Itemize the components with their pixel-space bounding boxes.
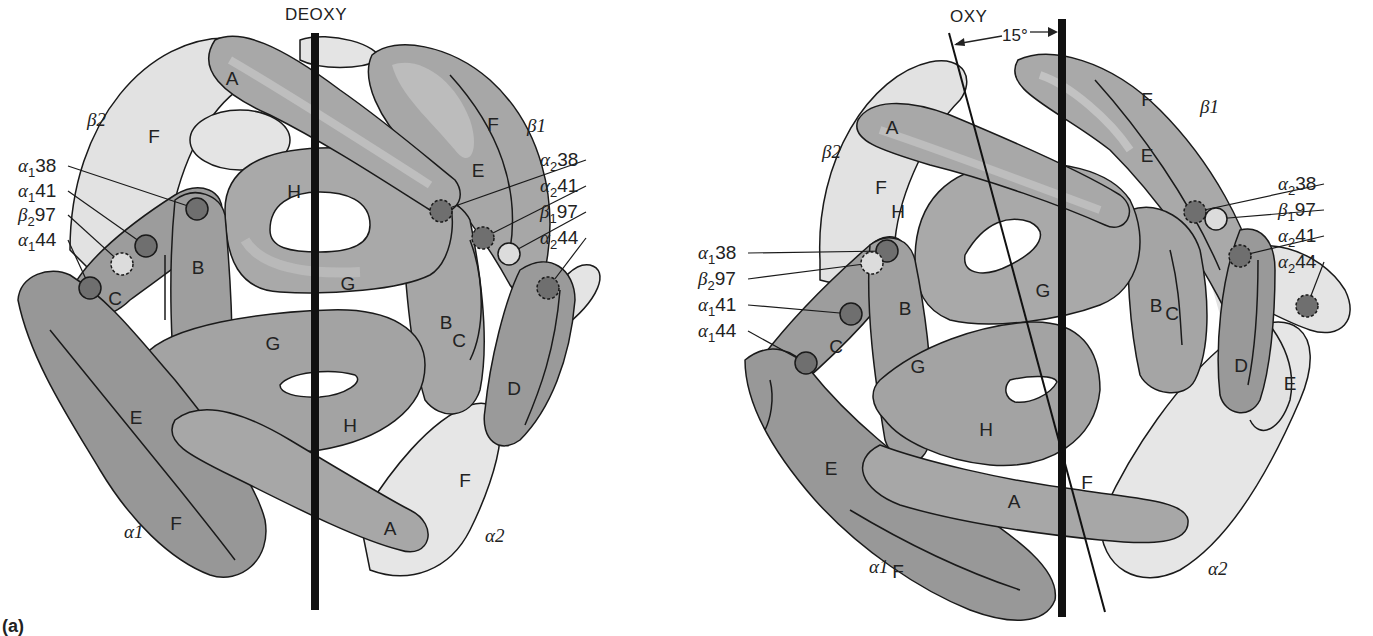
deoxy-chain-beta2-label: β2 <box>86 109 106 130</box>
helix-label-e-beta1: E <box>472 160 485 181</box>
residue-dot-icon <box>1296 295 1318 317</box>
oxy-chain-alpha2-label: α2 <box>1208 558 1228 579</box>
helix-label-h-bottom: H <box>979 419 993 440</box>
residue-dot-icon <box>861 252 883 274</box>
helix-label-e-alpha1: E <box>130 407 143 428</box>
helix-label-c-right: C <box>452 330 466 351</box>
helix-label-f-alpha1: F <box>892 561 904 582</box>
deoxy-helix-d-right <box>484 262 575 446</box>
helix-label-b-left: B <box>192 257 205 278</box>
residue-dot-icon <box>186 198 208 220</box>
residue-dot-icon <box>1205 208 1227 230</box>
oxy-chain-alpha1-label: α1 <box>869 556 888 577</box>
helix-label-e-alpha2: E <box>1284 373 1297 394</box>
helix-label-h-top: H <box>891 201 905 222</box>
helix-label-c-right: C <box>1165 303 1179 324</box>
residue-dot-icon <box>840 303 862 325</box>
deoxy-chain-alpha2-label: α2 <box>485 525 505 546</box>
helix-label-a-top: A <box>226 68 239 89</box>
residue-label: α241 <box>1278 225 1316 250</box>
oxy-reference-axis <box>1058 19 1066 617</box>
helix-label-h-bottom: H <box>343 415 357 436</box>
oxy-chain-beta1-label: β1 <box>1199 96 1219 117</box>
oxy-chain-beta2-label: β2 <box>821 141 841 162</box>
panel-label: (a) <box>2 616 24 636</box>
residue-label: α144 <box>18 229 57 254</box>
residue-label: α141 <box>18 180 56 205</box>
helix-label-d-right: D <box>507 378 521 399</box>
helix-label-g-top: G <box>1036 280 1051 301</box>
residue-dot-icon <box>1184 201 1206 223</box>
residue-label: β297 <box>17 204 56 229</box>
helix-label-d-right: D <box>1234 355 1248 376</box>
residue-label: α144 <box>698 320 737 345</box>
helix-label-b-right: B <box>1150 295 1163 316</box>
residue-dot-icon <box>795 352 817 374</box>
residue-label: α141 <box>698 294 736 319</box>
residue-label: α138 <box>18 155 56 180</box>
helix-label-h-top: H <box>287 181 301 202</box>
helix-label-a-bottom: A <box>384 518 397 539</box>
helix-label-b-right: B <box>440 312 453 333</box>
helix-label-c-left: C <box>108 288 122 309</box>
helix-label-a-top: A <box>886 117 899 138</box>
rotation-angle-indicator: 15° <box>954 26 1058 46</box>
oxy-title: OXY <box>950 7 987 26</box>
deoxy-symmetry-axis <box>311 33 319 610</box>
residue-dot-icon <box>135 235 157 257</box>
helix-label-f-beta1: F <box>1141 89 1153 110</box>
helix-label-b-left: B <box>899 298 912 319</box>
deoxy-title: DEOXY <box>285 5 347 24</box>
helix-label-c-left: C <box>829 336 843 357</box>
helix-label-e-alpha1: E <box>825 458 838 479</box>
residue-dot-icon <box>111 253 133 275</box>
helix-label-f-alpha2: F <box>1081 472 1093 493</box>
helix-label-e-beta1: E <box>1141 145 1154 166</box>
residue-dot-icon <box>537 277 559 299</box>
deoxy-chain-beta1-label: β1 <box>526 115 546 136</box>
deoxy-panel: α138α141β297α144 α238α241β197α244 DEOXY … <box>17 5 600 610</box>
helix-label-f-beta2: F <box>148 126 160 147</box>
rotation-angle-label: 15° <box>1002 26 1028 45</box>
residue-dot-icon <box>430 200 452 222</box>
residue-dot-icon <box>1229 245 1251 267</box>
helix-label-g-top: G <box>341 273 356 294</box>
residue-label: β297 <box>697 268 736 293</box>
helix-label-f-beta2: F <box>875 177 887 198</box>
residue-dot-icon <box>498 243 520 265</box>
helix-label-g-bottom: G <box>911 356 926 377</box>
helix-label-g-bottom: G <box>266 333 281 354</box>
residue-dot-icon <box>79 277 101 299</box>
figure-canvas: α138α141β297α144 α238α241β197α244 DEOXY … <box>0 0 1373 636</box>
helix-label-f-alpha1: F <box>170 513 182 534</box>
residue-label: α238 <box>1278 173 1316 198</box>
helix-label-a-bottom: A <box>1008 491 1021 512</box>
residue-label: α238 <box>540 149 578 174</box>
oxy-panel: α138β297α141α144 α238β197α241α244 OXY 15… <box>697 7 1350 620</box>
residue-label: β197 <box>1277 199 1316 224</box>
hemoglobin-deoxy-oxy-figure: α138α141β297α144 α238α241β197α244 DEOXY … <box>0 0 1373 636</box>
deoxy-chain-alpha1-label: α1 <box>124 521 143 542</box>
residue-label: α138 <box>698 242 736 267</box>
residue-dot-icon <box>472 227 494 249</box>
helix-label-f-beta1: F <box>487 114 499 135</box>
helix-label-f-alpha2: F <box>459 470 471 491</box>
